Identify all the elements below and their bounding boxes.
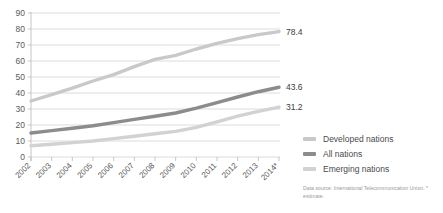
y-axis-tick-label: 20 [16,120,26,130]
y-axis-tick-label: 10 [16,136,26,146]
series-line [31,32,279,101]
legend-item[interactable]: All nations [303,146,443,161]
y-axis-tick-label: 70 [16,40,26,50]
legend-item-label: All nations [323,149,362,159]
legend-swatch-icon [303,167,316,171]
series-end-labels: 78.443.631.2 [286,27,303,113]
series-end-label: 43.6 [286,82,303,92]
y-axis-tick-label: 0 [20,152,25,162]
x-axis-tick-label: 2006 [96,161,115,180]
x-axis-tick-label: 2009 [158,161,177,180]
legend-swatch-icon [303,152,316,156]
x-axis-tick-label: 2014* [259,161,280,182]
y-axis-tick-label: 60 [16,56,26,66]
legend-item-label: Emerging nations [323,164,389,174]
data-series-group [31,32,279,146]
y-axis-tick-label: 30 [16,104,26,114]
legend-item[interactable]: Emerging nations [303,161,443,176]
y-axis-tick-label: 90 [16,8,26,18]
line-chart: 0102030405060708090 20022003200420052006… [0,0,443,213]
series-end-label: 31.2 [286,102,303,112]
y-axis-tick-label: 50 [16,72,26,82]
x-axis-tick-label: 2012 [220,161,239,180]
x-axis-ticks [31,157,279,161]
series-end-label: 78.4 [286,27,303,37]
legend-swatch-icon [303,137,316,141]
x-axis-tick-label: 2003 [34,161,53,180]
source-note: Data source: International Telecommunica… [303,185,441,201]
chart-container: 0102030405060708090 20022003200420052006… [0,0,443,213]
x-axis-tick-label: 2008 [137,161,156,180]
x-axis-tick-label: 2010 [179,161,198,180]
series-line [31,87,279,133]
x-axis-tick-label: 2007 [117,161,136,180]
y-axis-tick-labels: 0102030405060708090 [16,8,31,162]
x-axis-tick-label: 2013 [241,161,260,180]
x-axis-tick-label: 2002 [13,161,32,180]
legend-item[interactable]: Developed nations [303,131,443,146]
x-axis-tick-label: 2004 [55,161,74,180]
y-axis-tick-label: 40 [16,88,26,98]
x-axis-tick-labels: 2002200320042005200620072008200920102011… [13,161,280,183]
x-axis-tick-label: 2005 [75,161,94,180]
series-line [31,107,279,146]
x-axis-tick-label: 2011 [200,161,219,180]
chart-legend: Developed nationsAll nationsEmerging nat… [303,131,443,176]
legend-item-label: Developed nations [323,134,393,144]
y-axis-tick-label: 80 [16,24,26,34]
